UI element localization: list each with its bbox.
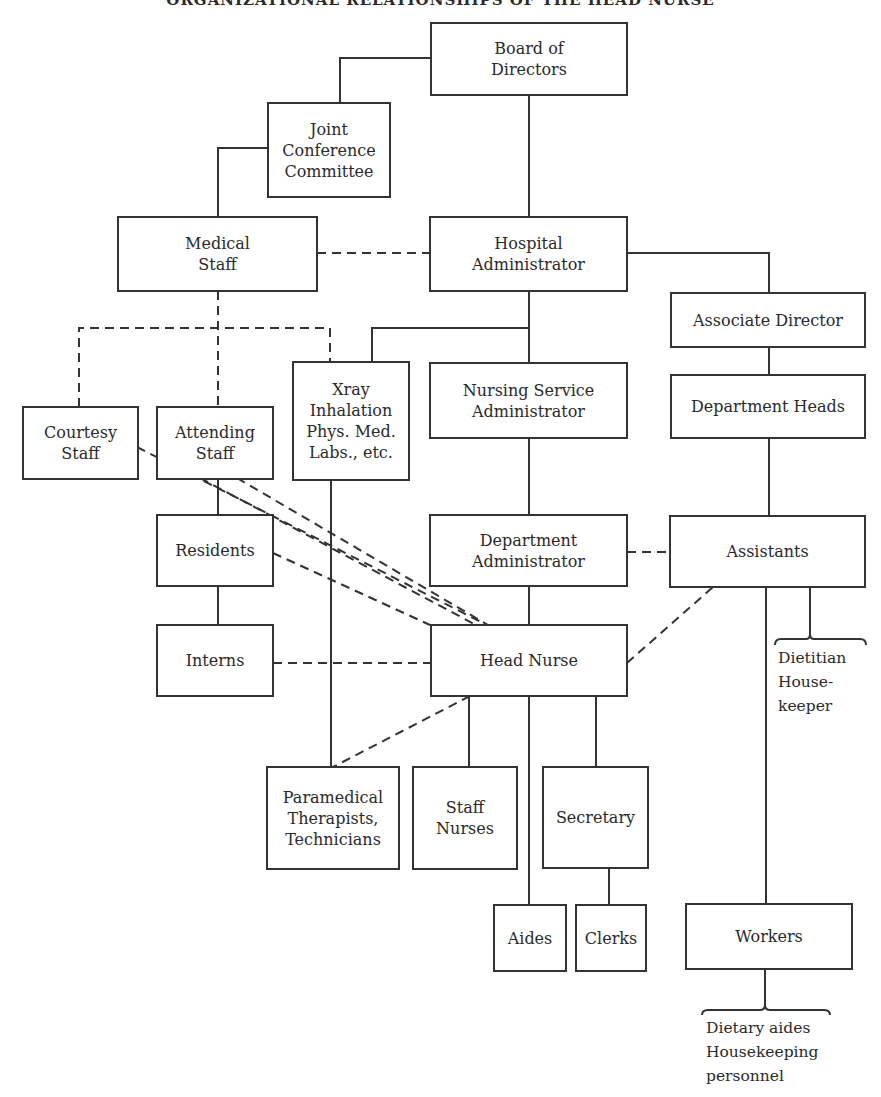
- attending-staff-box: Attending Staff: [156, 406, 274, 480]
- paramedical-box: Paramedical Therapists, Technicians: [266, 766, 400, 870]
- workers-sub-label: Dietary aides Housekeeping personnel: [706, 1016, 818, 1088]
- associate-director-box: Associate Director: [670, 292, 866, 348]
- joint-conference-committee-box: Joint Conference Committee: [267, 102, 391, 198]
- xray-labs-box: Xray Inhalation Phys. Med. Labs., etc.: [292, 361, 410, 481]
- hospital-administrator-box: Hospital Administrator: [429, 216, 628, 292]
- workers-box: Workers: [685, 903, 853, 970]
- head-nurse-box: Head Nurse: [430, 624, 628, 697]
- nursing-service-administrator-box: Nursing Service Administrator: [429, 362, 628, 439]
- department-administrator-box: Department Administrator: [429, 514, 628, 587]
- clerks-box: Clerks: [575, 904, 647, 972]
- secretary-box: Secretary: [542, 766, 649, 869]
- medical-staff-box: Medical Staff: [117, 216, 318, 292]
- assistants-box: Assistants: [669, 515, 866, 588]
- aides-box: Aides: [493, 904, 567, 972]
- courtesy-staff-box: Courtesy Staff: [22, 406, 139, 480]
- board-of-directors-box: Board of Directors: [430, 22, 628, 96]
- interns-box: Interns: [156, 624, 274, 697]
- residents-box: Residents: [156, 514, 274, 587]
- department-heads-box: Department Heads: [670, 374, 866, 439]
- assistants-sub-label: Dietitian House- keeper: [778, 646, 846, 718]
- staff-nurses-box: Staff Nurses: [412, 766, 518, 870]
